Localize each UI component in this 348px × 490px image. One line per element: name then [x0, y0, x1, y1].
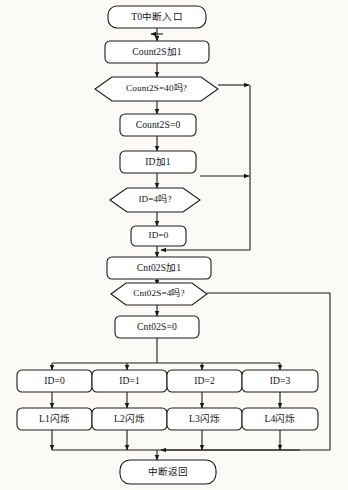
- flowchart-canvas: T0中断入口 Count2S加1 Count2S=40吗? Count2S=0 …: [0, 0, 348, 490]
- node-inc-id-label: ID加1: [120, 151, 196, 173]
- node-case-id1-label: ID=1: [92, 370, 167, 392]
- node-inc-count-label: Count2S加1: [105, 41, 209, 63]
- node-return-label: 中断返回: [120, 460, 216, 484]
- node-clr-cnt02-label: Cnt02S=0: [115, 316, 199, 338]
- node-chk-id-label: ID=4吗?: [110, 188, 200, 212]
- node-blink-l2-label: L2闪烁: [92, 408, 167, 430]
- node-case-id3-label: ID=3: [242, 370, 318, 392]
- node-blink-l4-label: L4闪烁: [242, 408, 318, 430]
- node-blink-l1-label: L1闪烁: [17, 408, 92, 430]
- node-case-id2-label: ID=2: [167, 370, 242, 392]
- node-blink-l3-label: L3闪烁: [167, 408, 242, 430]
- node-chk-cnt02-label: Cnt02S=4吗?: [111, 283, 207, 305]
- node-clr-count-label: Count2S=0: [120, 114, 196, 136]
- node-case-id0-label: ID=0: [17, 370, 92, 392]
- node-start-label: T0中断入口: [108, 6, 206, 28]
- node-chk-count-label: Count2S=40吗?: [95, 77, 218, 101]
- node-clr-id-label: ID=0: [131, 226, 186, 246]
- node-inc-cnt02-label: Cnt02S加1: [107, 257, 211, 279]
